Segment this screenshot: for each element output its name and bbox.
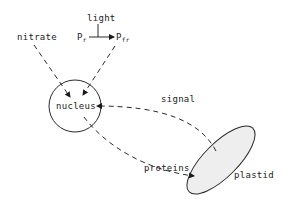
plastid-label: plastid (234, 170, 274, 180)
nitrate-label: nitrate (17, 32, 57, 42)
pr-label: Pr (77, 32, 87, 43)
nucleus-label: nucleus (56, 101, 96, 111)
proteins-label: proteins (144, 163, 190, 173)
pfr-to-nucleus-arrow (83, 46, 115, 95)
light-label: light (87, 13, 116, 23)
pfr-label: Pfr (116, 32, 130, 43)
nitrate-to-nucleus-arrow (34, 45, 70, 97)
diagram-canvas: light Pr Pfr nitrate nucleus plastid sig… (0, 0, 283, 208)
signal-arrow (97, 106, 216, 151)
plastid-ellipse (177, 116, 265, 204)
signal-label: signal (161, 94, 195, 104)
